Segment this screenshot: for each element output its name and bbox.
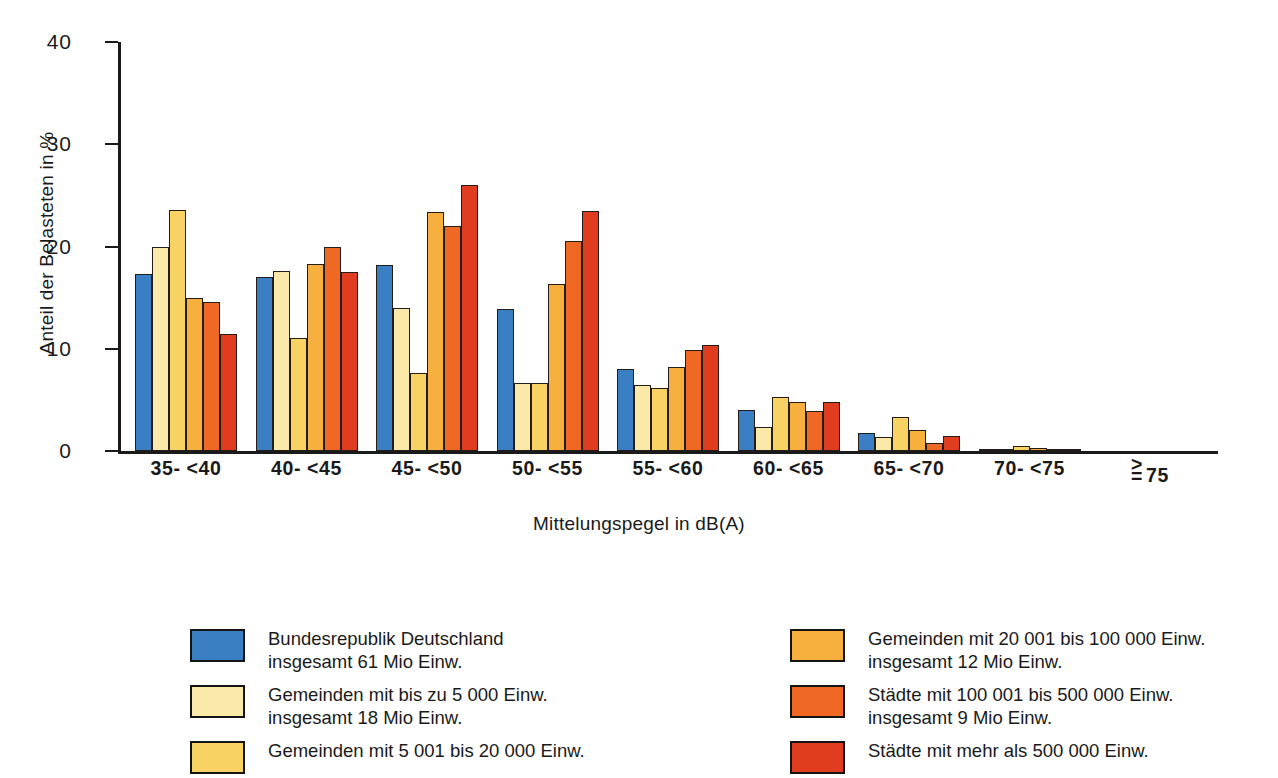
bar <box>685 350 702 451</box>
bar <box>531 383 548 452</box>
legend-label: Gemeinden mit 20 001 bis 100 000 Einw.in… <box>868 627 1205 674</box>
x-axis-line <box>118 451 1218 454</box>
legend-item: Gemeinden mit 20 001 bis 100 000 Einw.in… <box>790 627 1205 674</box>
bar <box>909 430 926 451</box>
bar <box>979 449 996 451</box>
legend-label-line2: insgesamt 18 Mio Einw. <box>268 706 548 729</box>
bar-group <box>256 42 358 451</box>
bar <box>393 308 410 451</box>
legend-swatch <box>790 685 845 718</box>
bar <box>668 367 685 451</box>
bar <box>702 345 719 451</box>
bar <box>823 402 840 451</box>
y-tick-mark <box>105 143 118 145</box>
legend-label-line1: Gemeinden mit bis zu 5 000 Einw. <box>268 683 548 706</box>
x-tick-label: 40- <45 <box>271 457 342 480</box>
bar <box>376 265 393 451</box>
x-tick-label: 60- <65 <box>753 457 824 480</box>
legend-label: Bundesrepublik Deutschlandinsgesamt 61 M… <box>268 627 504 674</box>
legend-label-line1: Gemeinden mit 5 001 bis 20 000 Einw. <box>268 739 585 762</box>
legend-column-left: Bundesrepublik Deutschlandinsgesamt 61 M… <box>190 627 585 778</box>
bar-group <box>617 42 719 451</box>
bar <box>875 437 892 451</box>
legend-label: Städte mit mehr als 500 000 Einw. <box>868 739 1149 762</box>
legend-label-line1: Städte mit mehr als 500 000 Einw. <box>868 739 1149 762</box>
x-tick-label: 45- <50 <box>392 457 463 480</box>
legend-label-line2: insgesamt 12 Mio Einw. <box>868 650 1205 673</box>
bar <box>169 210 186 451</box>
legend-label-line2: insgesamt 9 Mio Einw. <box>868 706 1173 729</box>
legend-item: Bundesrepublik Deutschlandinsgesamt 61 M… <box>190 627 585 674</box>
bar <box>256 277 273 451</box>
bar <box>444 226 461 451</box>
x-tick-label: 65- <70 <box>874 457 945 480</box>
legend-item: Städte mit mehr als 500 000 Einw. <box>790 739 1205 774</box>
y-tick-label: 30 <box>47 132 72 156</box>
y-tick-mark <box>105 41 118 43</box>
bar <box>789 402 806 451</box>
bar-group <box>497 42 599 451</box>
bar <box>634 385 651 451</box>
bar <box>1064 449 1081 451</box>
bar <box>582 211 599 451</box>
bar <box>497 309 514 451</box>
bar <box>152 247 169 452</box>
y-tick-label: 40 <box>47 30 72 54</box>
bar <box>617 369 634 451</box>
bar <box>410 373 427 451</box>
y-tick-mark <box>105 450 118 452</box>
legend-item: Gemeinden mit bis zu 5 000 Einw.insgesam… <box>190 683 585 730</box>
bar <box>324 247 341 452</box>
legend-swatch <box>790 741 845 774</box>
y-tick-mark <box>105 246 118 248</box>
bar <box>548 284 565 451</box>
legend-label: Städte mit 100 001 bis 500 000 Einw.insg… <box>868 683 1173 730</box>
chart-legend: Bundesrepublik Deutschlandinsgesamt 61 M… <box>0 627 1278 764</box>
bar <box>892 417 909 451</box>
bar-group <box>979 42 1081 451</box>
legend-swatch <box>190 629 245 662</box>
bar <box>651 388 668 451</box>
bar <box>755 427 772 451</box>
legend-item: Städte mit 100 001 bis 500 000 Einw.insg… <box>790 683 1205 730</box>
bar-group <box>376 42 478 451</box>
bar <box>186 298 203 451</box>
legend-column-right: Gemeinden mit 20 001 bis 100 000 Einw.in… <box>790 627 1205 778</box>
x-tick-label: 70- <75 <box>994 457 1065 480</box>
legend-swatch <box>190 741 245 774</box>
x-tick-label: 50- <55 <box>512 457 583 480</box>
legend-label-line1: Gemeinden mit 20 001 bis 100 000 Einw. <box>868 627 1205 650</box>
legend-label: Gemeinden mit 5 001 bis 20 000 Einw. <box>268 739 585 762</box>
bar-group <box>1099 42 1201 451</box>
bar <box>565 241 582 451</box>
bar <box>1030 448 1047 451</box>
x-axis-title: Mittelungspegel in dB(A) <box>0 513 1278 535</box>
bar <box>307 264 324 451</box>
bar <box>996 449 1013 451</box>
legend-swatch <box>190 685 245 718</box>
bar-group <box>858 42 960 451</box>
legend-label-line1: Städte mit 100 001 bis 500 000 Einw. <box>868 683 1173 706</box>
bar-group <box>135 42 237 451</box>
bar <box>858 433 875 451</box>
y-tick-label: 10 <box>47 337 72 361</box>
legend-label-line2: insgesamt 61 Mio Einw. <box>268 650 504 673</box>
bar <box>461 185 478 451</box>
legend-label-line1: Bundesrepublik Deutschland <box>268 627 504 650</box>
x-tick-label: >=75 <box>1131 457 1169 487</box>
bar <box>290 338 307 451</box>
bar <box>427 212 444 451</box>
y-tick-label: 20 <box>47 235 72 259</box>
bar-group <box>738 42 840 451</box>
bar <box>738 410 755 451</box>
bar <box>806 411 823 451</box>
legend-item: Gemeinden mit 5 001 bis 20 000 Einw. <box>190 739 585 774</box>
bar <box>220 334 237 451</box>
bar <box>1047 449 1064 451</box>
plot-area: 010203040 35- <4040- <4545- <5050- <5555… <box>118 42 1218 453</box>
y-tick-label: 0 <box>59 439 72 463</box>
bar <box>1013 446 1030 451</box>
x-tick-label: 55- <60 <box>633 457 704 480</box>
bar <box>273 271 290 451</box>
